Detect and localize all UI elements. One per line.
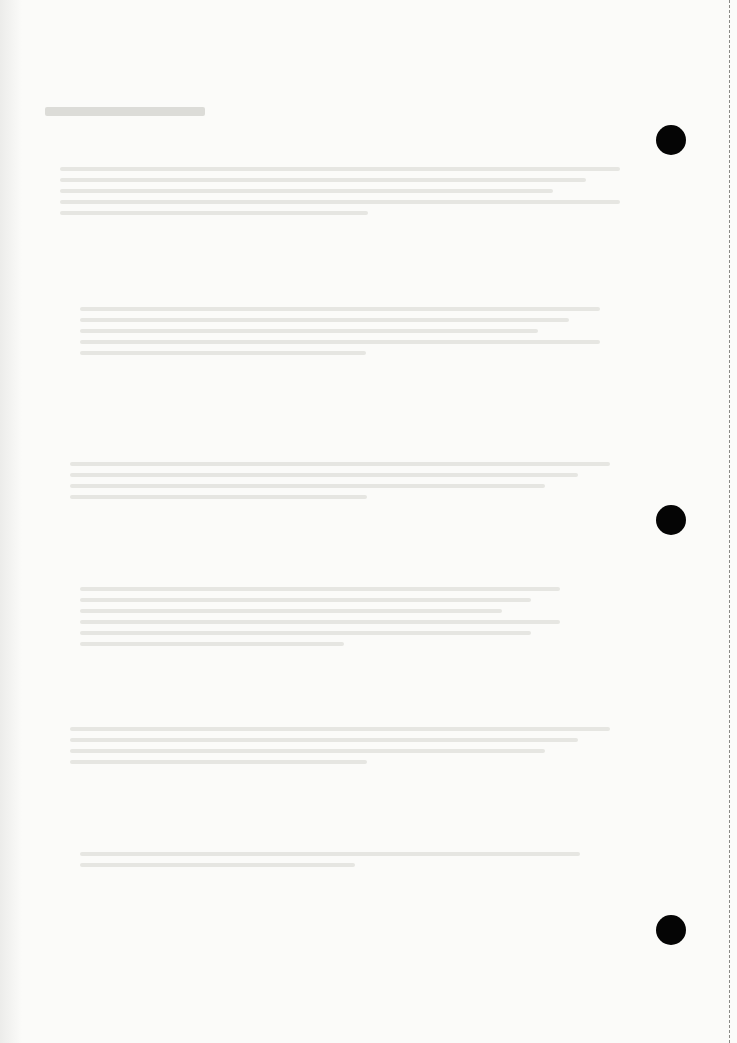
faded-text-line [70,760,367,764]
faded-text-line [80,609,502,613]
faded-paragraph [60,160,620,222]
faded-text-line [60,167,620,171]
binder-punch-hole [656,125,686,155]
faded-text-line [80,642,344,646]
faded-text-line [60,178,586,182]
faded-paragraph [70,455,610,506]
faded-text-line [80,587,560,591]
faded-text-line [80,340,600,344]
scanned-page [0,0,737,1043]
faded-text-line [80,863,355,867]
faded-text-line [60,189,553,193]
faded-paragraph [70,720,610,771]
faded-text-line [70,462,610,466]
faded-heading [45,100,205,123]
binder-punch-hole [656,505,686,535]
faded-text-line [60,200,620,204]
faded-text-line [80,329,538,333]
faded-text-line [70,738,578,742]
faded-text-line [80,351,366,355]
faded-text-line [80,852,580,856]
faded-text-line [80,620,560,624]
faded-text-line [45,107,205,116]
faded-text-line [80,631,531,635]
perforation-line [729,0,730,1043]
faded-paragraph [80,300,600,362]
faded-text-line [80,318,569,322]
faded-text-line [70,727,610,731]
scan-edge-shadow [0,0,22,1043]
faded-paragraph [80,845,580,874]
binder-punch-hole [656,915,686,945]
faded-text-line [70,484,545,488]
faded-text-line [80,307,600,311]
faded-text-line [70,495,367,499]
faded-text-line [70,749,545,753]
faded-text-line [70,473,578,477]
faded-text-line [60,211,368,215]
faded-text-line [80,598,531,602]
faded-paragraph [80,580,560,653]
